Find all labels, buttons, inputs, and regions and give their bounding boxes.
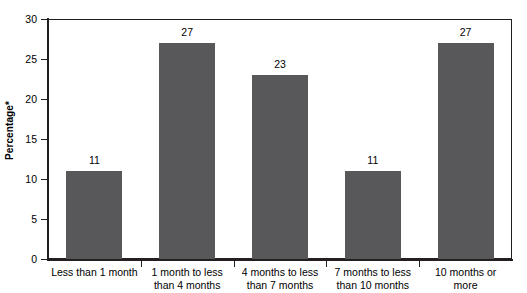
bar-value-label: 11 bbox=[367, 155, 378, 166]
bar bbox=[159, 43, 215, 259]
x-axis-category-label: 4 months to lessthan 7 months bbox=[242, 266, 318, 292]
y-axis-line bbox=[47, 18, 49, 261]
bar bbox=[438, 43, 494, 259]
y-axis-tick-label: 25 bbox=[25, 54, 37, 65]
y-axis-tick bbox=[41, 19, 48, 20]
y-axis-tick-label: 5 bbox=[31, 214, 37, 225]
bar-value-label: 23 bbox=[274, 59, 286, 70]
y-axis-tick bbox=[41, 219, 48, 220]
x-axis-tick bbox=[234, 261, 235, 267]
y-axis-tick-label: 10 bbox=[25, 174, 37, 185]
y-axis-tick bbox=[41, 259, 48, 260]
x-axis-tick bbox=[419, 261, 420, 267]
x-axis-tick bbox=[326, 261, 327, 267]
bar bbox=[252, 75, 308, 259]
x-axis-line bbox=[47, 259, 513, 261]
y-axis-title: Percentage* bbox=[0, 0, 18, 260]
x-axis-category-label: 7 months to lessthan 10 months bbox=[335, 266, 411, 292]
bar-chart: Percentage* 051015202530 1127231127 Less… bbox=[0, 0, 527, 293]
y-axis-tick-label: 15 bbox=[25, 134, 37, 145]
y-axis-tick-label: 20 bbox=[25, 94, 37, 105]
y-axis-tick-label: 30 bbox=[25, 14, 37, 25]
y-axis-tick bbox=[41, 99, 48, 100]
x-axis-category-label: Less than 1 month bbox=[51, 266, 137, 279]
bar-value-label: 11 bbox=[89, 155, 100, 166]
y-axis-tick bbox=[41, 59, 48, 60]
bar-value-label: 27 bbox=[460, 27, 472, 38]
y-axis-tick-label: 0 bbox=[31, 254, 37, 265]
bar bbox=[66, 171, 122, 259]
bar-value-label: 27 bbox=[181, 27, 193, 38]
x-axis-category-label: 10 months ormore bbox=[435, 266, 496, 292]
x-axis-category-label: 1 month to lessthan 4 months bbox=[152, 266, 223, 292]
y-axis-tick bbox=[41, 139, 48, 140]
bar bbox=[345, 171, 401, 259]
y-axis-tick bbox=[41, 179, 48, 180]
y-axis-title-text: Percentage* bbox=[4, 101, 15, 160]
x-axis-tick bbox=[141, 261, 142, 267]
